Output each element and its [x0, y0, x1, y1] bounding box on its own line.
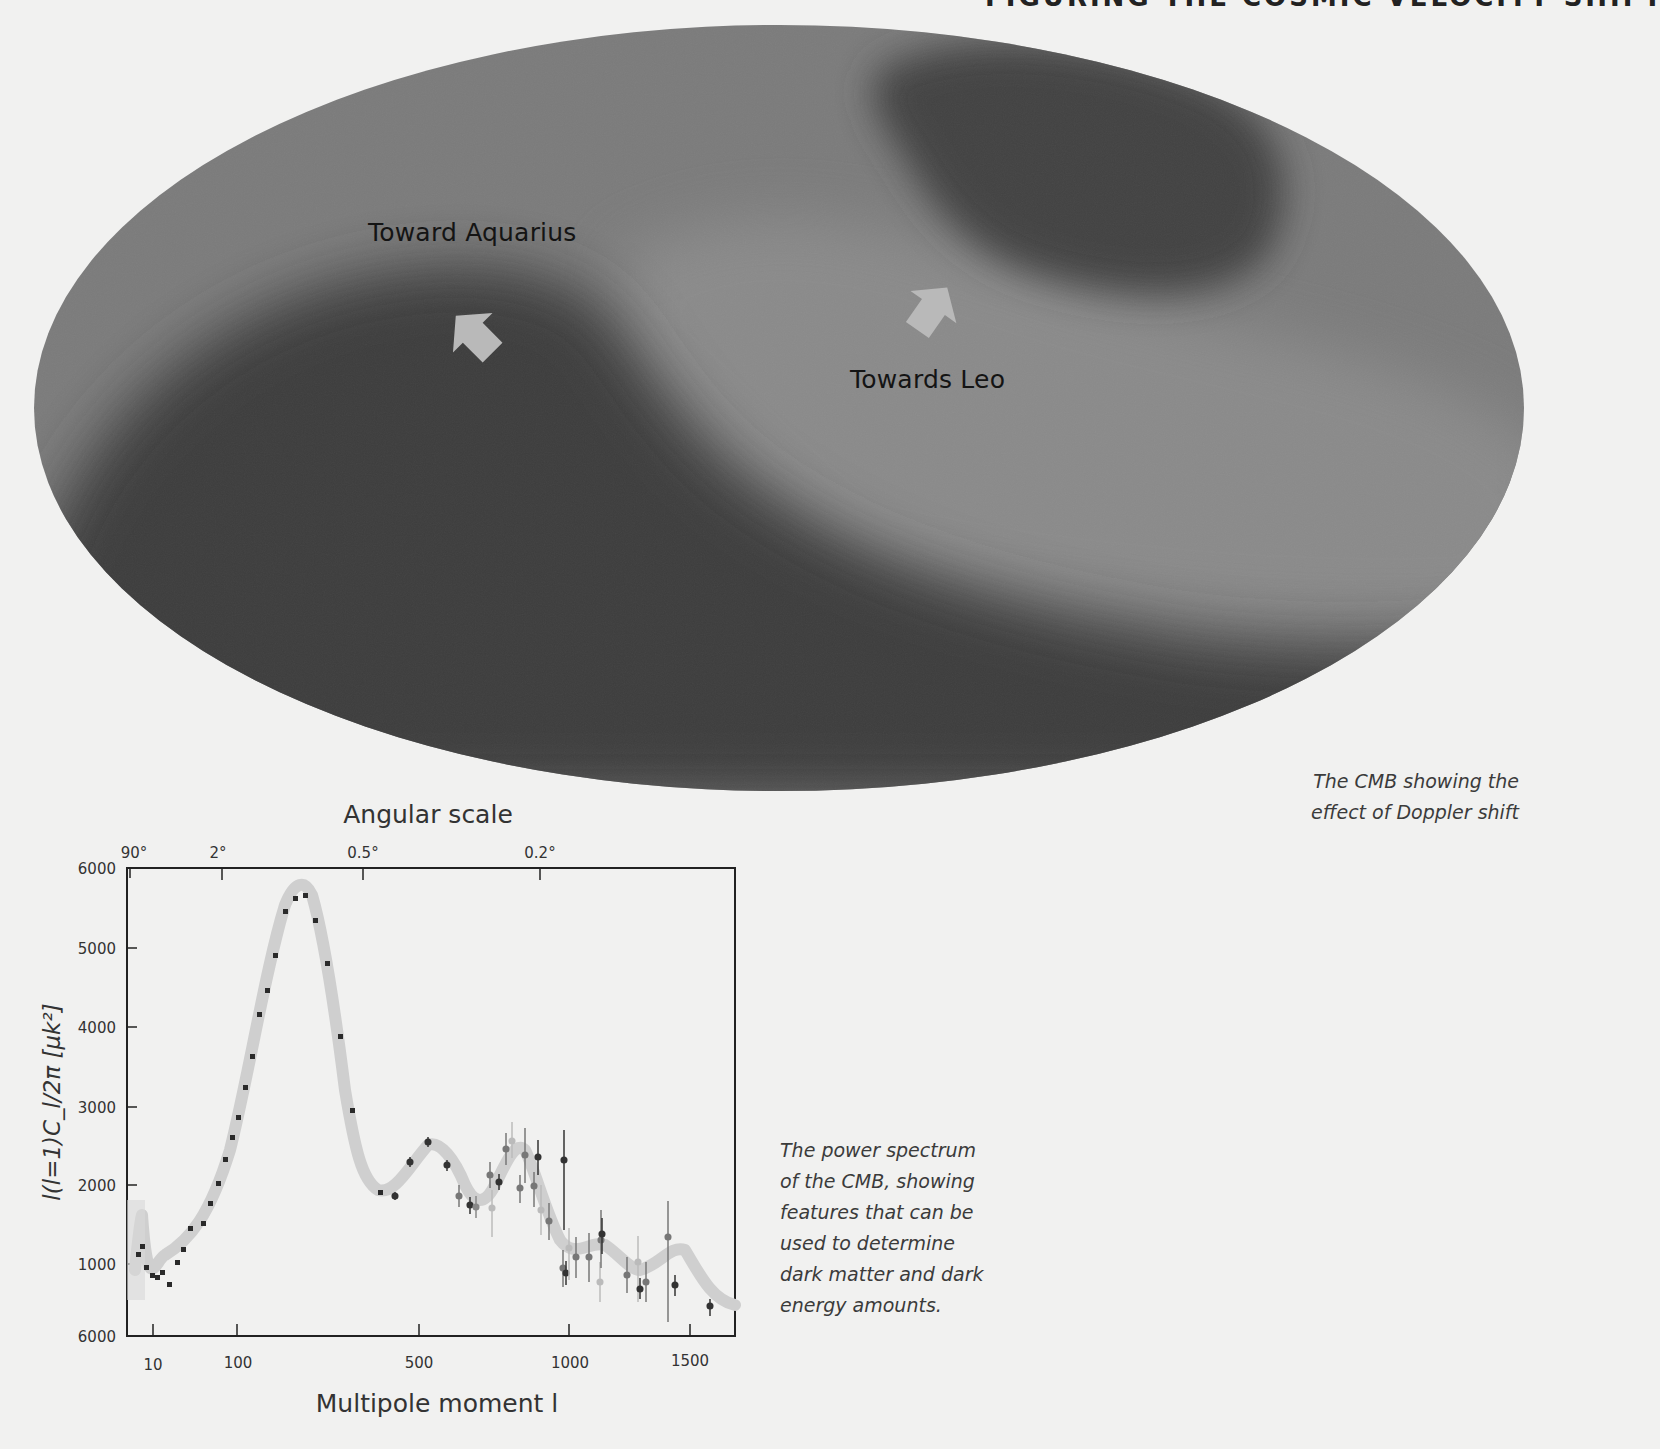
sky-map-ellipse [0, 0, 1557, 800]
y-tick-label: 5000 [78, 940, 116, 958]
label-towards-leo: Towards Leo [850, 365, 1005, 394]
y-tick-label: 2000 [78, 1177, 116, 1195]
x-tick-label: 1500 [671, 1352, 709, 1370]
y-tick-label: 6000 [78, 1328, 116, 1346]
caption-line: used to determine [780, 1228, 983, 1259]
model-fit-band [135, 885, 735, 1305]
x-ticks [153, 1324, 690, 1336]
top-ticks [130, 868, 540, 880]
x-tick-label: 1000 [551, 1354, 589, 1372]
power-spectrum-chart: Angular scale 90° 2° 0.5° 0.2° 6000 5000… [0, 790, 780, 1449]
caption-line: dark matter and dark [780, 1259, 983, 1290]
top-tick-label: 0.2° [524, 844, 555, 862]
x-tick-label: 500 [405, 1354, 434, 1372]
top-tick-label: 90° [121, 844, 148, 862]
y-tick-label: 3000 [78, 1099, 116, 1117]
y-tick-label: 4000 [78, 1019, 116, 1037]
caption-cmb-doppler: The CMB showing the effect of Doppler sh… [1297, 766, 1519, 828]
y-tick-label: 1000 [78, 1256, 116, 1274]
chart-title: Angular scale [343, 800, 513, 829]
y-tick-label: 6000 [78, 860, 116, 878]
top-tick-label: 2° [209, 844, 226, 862]
caption-line: The CMB showing the [1297, 766, 1519, 797]
y-axis-label: l(l=1)C_l/2π [μk²] [39, 1003, 65, 1200]
cmb-dipole-sky-map [0, 0, 1557, 800]
caption-line: energy amounts. [780, 1290, 983, 1321]
caption-line: features that can be [780, 1197, 983, 1228]
caption-power-spectrum: The power spectrum of the CMB, showing f… [780, 1135, 983, 1321]
caption-line: The power spectrum [780, 1135, 983, 1166]
caption-line: effect of Doppler shift [1297, 797, 1519, 828]
x-tick-label: 10 [143, 1356, 162, 1374]
label-toward-aquarius: Toward Aquarius [368, 218, 577, 247]
x-tick-label: 100 [224, 1354, 253, 1372]
top-tick-label: 0.5° [347, 844, 378, 862]
x-axis-label: Multipole moment l [316, 1389, 558, 1418]
caption-line: of the CMB, showing [780, 1166, 983, 1197]
